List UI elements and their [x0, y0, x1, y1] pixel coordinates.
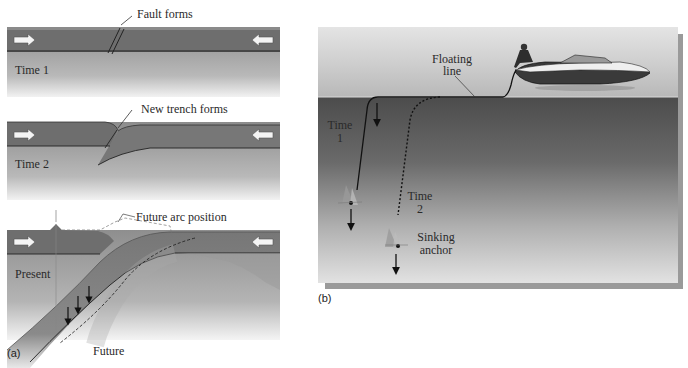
label-time1-number: 1	[326, 132, 354, 145]
water	[318, 97, 678, 283]
panel-letter-b: (b)	[318, 292, 331, 304]
panel-b-graphics	[0, 0, 688, 368]
label-time2-number: 2	[406, 203, 434, 216]
label-anchor: anchor	[416, 244, 456, 257]
label-line: line	[427, 65, 477, 78]
